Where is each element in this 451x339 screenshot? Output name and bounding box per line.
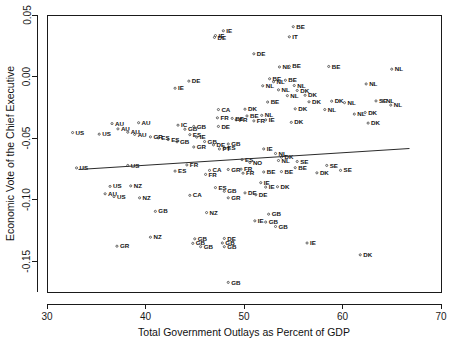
y-axis-tick-label: -0.10 [22, 188, 33, 211]
data-point: ES [214, 184, 226, 191]
point-marker [290, 121, 292, 123]
chart-canvas: IEIEDEBEITDENLBEBEDEBENLBENLNLNLNLNLDKIE… [0, 0, 451, 339]
point-label: DE [248, 189, 257, 196]
point-marker [304, 94, 306, 96]
point-marker [296, 160, 298, 162]
point-marker [221, 242, 223, 244]
data-point: DK [331, 97, 345, 104]
data-point: NZ [206, 209, 219, 216]
point-label: NL [266, 82, 274, 89]
x-axis-tick-label: 40 [140, 311, 152, 322]
data-point: NL [277, 86, 290, 93]
point-marker [267, 101, 269, 103]
data-point: DK [294, 105, 308, 112]
point-marker [177, 124, 179, 126]
data-point: BE [231, 115, 244, 122]
data-point: BE [263, 168, 276, 175]
point-label: NL [282, 63, 290, 70]
point-label: FR [209, 171, 218, 178]
point-label: PT [222, 145, 230, 152]
point-label: GR [120, 242, 130, 249]
point-label: DK [335, 97, 344, 104]
point-marker [139, 197, 141, 199]
point-marker [331, 100, 333, 102]
data-point: DK [308, 98, 322, 105]
point-label: DK [368, 109, 377, 116]
x-axis-tick-label: 60 [337, 311, 349, 322]
point-label: IE [269, 116, 275, 123]
point-label: US [80, 164, 89, 171]
point-marker [263, 148, 265, 150]
point-label: IT [292, 33, 298, 40]
data-point: DK [364, 109, 378, 116]
data-point: DK [276, 183, 290, 190]
point-marker [359, 254, 361, 256]
point-label: AU [131, 128, 140, 135]
y-axis-tick-label: 0.00 [22, 66, 33, 86]
point-label: CA [193, 191, 202, 198]
point-label: DK [294, 118, 303, 125]
point-marker [277, 159, 279, 161]
axes-layer: 3040506070Total Government Outlays as Pe… [4, 5, 447, 338]
point-marker [274, 225, 276, 227]
point-marker [390, 104, 392, 106]
point-label: IE [310, 239, 316, 246]
point-marker [76, 167, 78, 169]
point-marker [188, 80, 190, 82]
point-label: DK [280, 183, 289, 190]
point-marker [216, 117, 218, 119]
point-label: GB [180, 138, 190, 145]
point-marker [276, 186, 278, 188]
data-point: IC [177, 121, 188, 128]
point-marker [367, 122, 369, 124]
point-label: ES [178, 167, 186, 174]
point-label: GB [269, 218, 279, 225]
point-label: IE [267, 145, 273, 152]
point-marker [277, 89, 279, 91]
point-label: GB [158, 207, 168, 214]
data-point: GR [116, 242, 130, 249]
data-point: NL [343, 99, 356, 106]
point-label: GR [231, 194, 241, 201]
point-marker [117, 128, 119, 130]
data-point: NL [391, 65, 404, 72]
point-marker [184, 128, 186, 130]
point-label: US [117, 193, 126, 200]
point-label: US [76, 129, 85, 136]
point-label: DK [298, 105, 307, 112]
data-point: FR [216, 114, 229, 121]
plot-frame-layer [48, 16, 442, 293]
point-label: NL [395, 65, 403, 72]
point-label: SE [330, 162, 338, 169]
y-axis-title: Economic Vote of the Chief Executive [4, 66, 16, 241]
point-marker [223, 190, 225, 192]
point-label: GR [197, 143, 207, 150]
point-marker [316, 172, 318, 174]
data-point: GB [154, 207, 168, 214]
data-point: IE [306, 239, 316, 246]
point-marker [154, 210, 156, 212]
point-marker [174, 170, 176, 172]
y-axis-tick-label: -0.05 [22, 126, 33, 149]
data-point: GB [265, 218, 279, 225]
point-label: DK [312, 98, 321, 105]
point-marker [263, 171, 265, 173]
data-point: ES [174, 167, 186, 174]
point-marker [294, 108, 296, 110]
point-label: NL [394, 101, 402, 108]
point-label: US [113, 182, 122, 189]
point-label: IE [178, 84, 184, 91]
point-marker [284, 79, 286, 81]
data-point: NL [353, 110, 366, 117]
x-axis-tick-label: 70 [435, 311, 447, 322]
point-label: GB [227, 243, 237, 250]
point-label: GB [272, 210, 282, 217]
point-marker [109, 185, 111, 187]
data-point: GB [227, 279, 241, 286]
point-marker [205, 173, 207, 175]
point-marker [343, 102, 345, 104]
data-point: BE [267, 98, 280, 105]
point-label: DE [259, 191, 268, 198]
plot-border [48, 16, 442, 293]
point-label: FR [257, 117, 266, 124]
